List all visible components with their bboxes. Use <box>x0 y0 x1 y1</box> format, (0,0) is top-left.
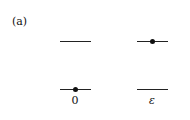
panel-label: (a) <box>12 15 27 28</box>
occupied-dot-icon <box>73 87 78 92</box>
lower-level-line <box>137 89 168 91</box>
upper-level-line <box>60 41 91 43</box>
occupied-dot-icon <box>150 39 155 44</box>
column-label: ε <box>142 95 162 107</box>
column-label: 0 <box>65 95 85 107</box>
